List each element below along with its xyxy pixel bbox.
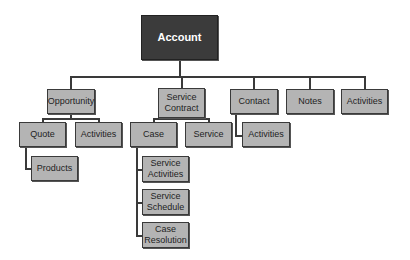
connector-notes	[309, 76, 311, 89]
node-label: Notes	[298, 96, 322, 107]
node-label: Service Activities	[148, 158, 184, 180]
connector-sc-bar	[153, 118, 209, 120]
node-activities: Activities	[341, 89, 388, 114]
node-opportunity: Opportunity	[47, 89, 95, 114]
node-label: Contact	[238, 96, 269, 107]
node-label: Opportunity	[48, 96, 95, 107]
connector-account-down	[179, 60, 181, 76]
connector-service-contract	[181, 76, 183, 88]
node-label: Service Contract	[164, 92, 198, 114]
connector-contact-down	[235, 114, 237, 136]
node-label: Service	[193, 129, 223, 140]
connector-activities	[364, 76, 366, 89]
node-contact-activities: Activities	[242, 122, 290, 147]
connector-contact	[253, 76, 255, 89]
node-opportunity-activities: Activities	[75, 122, 122, 147]
node-quote: Quote	[19, 122, 66, 147]
connector-opportunity-bar	[42, 118, 99, 120]
node-label: Products	[37, 163, 73, 174]
node-label: Account	[158, 32, 202, 43]
node-products: Products	[31, 156, 78, 181]
node-label: Case	[143, 129, 164, 140]
node-label: Case Resolution	[144, 224, 187, 246]
connector-case-down	[136, 147, 138, 236]
node-label: Activities	[347, 96, 383, 107]
node-service-contract: Service Contract	[158, 88, 205, 118]
node-label: Service Schedule	[147, 191, 185, 213]
node-service-schedule: Service Schedule	[142, 189, 189, 215]
connector-level1-bar	[70, 76, 366, 78]
connector-quote-down	[25, 147, 27, 169]
node-contact: Contact	[230, 89, 278, 114]
node-case: Case	[130, 122, 177, 147]
node-service-activities: Service Activities	[142, 156, 189, 182]
node-label: Activities	[248, 129, 284, 140]
node-case-resolution: Case Resolution	[142, 222, 189, 248]
node-label: Activities	[81, 129, 117, 140]
node-service: Service	[185, 122, 232, 147]
node-account: Account	[141, 15, 218, 60]
connector-opportunity	[70, 76, 72, 89]
connector-contact-activities	[235, 135, 242, 137]
node-label: Quote	[30, 129, 55, 140]
node-notes: Notes	[286, 89, 334, 114]
